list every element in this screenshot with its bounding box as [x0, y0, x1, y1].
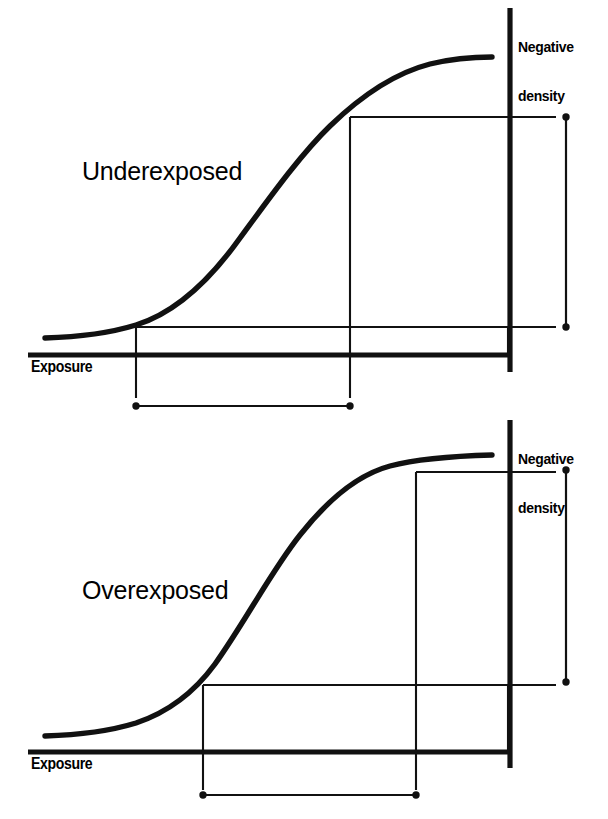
chart-overexposed — [28, 420, 570, 799]
exposure-range-bracket-overexposed — [199, 791, 419, 798]
density-range-bracket-underexposed — [562, 113, 569, 330]
characteristic-curve-overexposed — [45, 455, 492, 736]
diagram-canvas — [0, 0, 608, 819]
exposure-range-bracket-underexposed — [132, 402, 353, 409]
density-range-bracket-overexposed — [562, 466, 569, 685]
chart-underexposed — [28, 8, 570, 410]
characteristic-curve-underexposed — [45, 57, 492, 338]
figure-root: Negative density Underexposed Exposure N… — [0, 0, 608, 819]
